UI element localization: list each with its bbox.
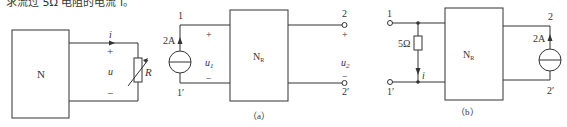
circuit-b xyxy=(388,8,562,100)
junction-dot xyxy=(416,80,420,84)
plus-sign-a: + xyxy=(206,29,212,40)
u1-label: u1 xyxy=(205,57,214,70)
network-nr-box-b xyxy=(445,8,503,100)
voltage-u-label: u xyxy=(108,66,113,77)
port-1-label-b: 1 xyxy=(387,8,392,19)
resistor-r-label: R xyxy=(144,66,152,78)
plus-sign: + xyxy=(107,45,113,57)
plus-sign-a2: + xyxy=(342,29,348,40)
caption-a: （a） xyxy=(248,111,270,121)
network-nr-label-a: NR xyxy=(253,51,264,63)
junction-dot xyxy=(416,21,420,25)
terminal-1-icon xyxy=(388,21,393,26)
current-i-label-b: i xyxy=(422,70,425,81)
resistor-value-label: 5Ω xyxy=(398,38,410,49)
current-i-label: i xyxy=(109,29,112,40)
source-arrow-icon-b xyxy=(548,34,553,41)
circuit-diagrams: N i + u − R 1 2A 1′ + u1 − NR 2 + u2 − 2… xyxy=(0,0,567,127)
source-arrow-icon xyxy=(178,37,183,44)
port-2-label: 2 xyxy=(342,8,347,19)
u2-label: u2 xyxy=(341,57,350,70)
minus-sign: − xyxy=(107,87,113,99)
resistor-5ohm xyxy=(414,36,422,50)
minus-sign-a2: − xyxy=(342,71,348,82)
network-nr-label-b: NR xyxy=(463,49,474,61)
port-2prime-label-b: 2′ xyxy=(547,85,554,96)
caption-b: （b） xyxy=(456,107,479,117)
terminal-1prime-icon xyxy=(388,80,393,85)
network-n-label: N xyxy=(37,68,45,80)
port-1prime-label-b: 1′ xyxy=(387,86,394,97)
port-2prime-label: 2′ xyxy=(342,86,349,97)
port-1prime-label: 1′ xyxy=(177,87,184,98)
left-circuit xyxy=(12,30,148,118)
port-2-label-b: 2 xyxy=(548,11,553,22)
source-value-b: 2A xyxy=(533,33,546,44)
port-1-label: 1 xyxy=(178,10,183,21)
current-arrow-icon-b xyxy=(416,68,421,75)
minus-sign-a: − xyxy=(206,73,212,84)
source-value-a: 2A xyxy=(163,35,176,46)
terminal-2-icon xyxy=(342,23,347,28)
